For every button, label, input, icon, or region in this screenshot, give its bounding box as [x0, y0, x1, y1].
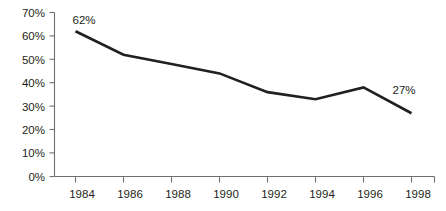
- x-tick-label-1998: 1998: [405, 188, 431, 200]
- x-tick-label-1992: 1992: [261, 188, 287, 200]
- data-series-line: [76, 31, 412, 113]
- y-tick-label-10: 10%: [22, 147, 45, 159]
- y-tick-marks: [50, 13, 55, 177]
- x-tick-marks: [76, 177, 435, 183]
- y-tick-label-0: 0%: [28, 171, 45, 183]
- line-chart: 70% 60% 50% 40% 30% 20% 10% 0% 1984 1986…: [0, 0, 446, 211]
- annotation-end-value: 27%: [392, 84, 415, 96]
- y-tick-label-40: 40%: [22, 77, 45, 89]
- y-tick-label-20: 20%: [22, 124, 45, 136]
- annotation-start-value: 62%: [72, 14, 95, 26]
- x-tick-label-1996: 1996: [357, 188, 383, 200]
- x-tick-label-1994: 1994: [309, 188, 335, 200]
- y-tick-label-70: 70%: [22, 7, 45, 19]
- x-tick-label-1986: 1986: [117, 188, 143, 200]
- x-tick-label-1984: 1984: [69, 188, 95, 200]
- y-tick-label-30: 30%: [22, 101, 45, 113]
- x-axis-labels: 1984 1986 1988 1990 1992 1994 1996 1998: [69, 188, 431, 200]
- x-tick-label-1988: 1988: [165, 188, 191, 200]
- y-tick-label-50: 50%: [22, 54, 45, 66]
- y-tick-label-60: 60%: [22, 30, 45, 42]
- x-tick-label-1990: 1990: [213, 188, 239, 200]
- chart-canvas: 70% 60% 50% 40% 30% 20% 10% 0% 1984 1986…: [0, 0, 446, 211]
- y-axis-labels: 70% 60% 50% 40% 30% 20% 10% 0%: [22, 7, 45, 183]
